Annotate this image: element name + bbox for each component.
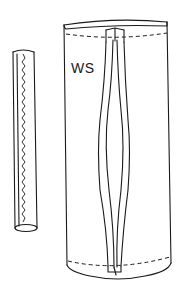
narrow-tube [13, 50, 37, 232]
center-seam [99, 28, 130, 275]
garment-panel [64, 20, 171, 279]
stitch-line-bottom [68, 257, 170, 266]
stitch-line-top [66, 33, 167, 37]
zigzag-seam [22, 54, 25, 222]
wrong-side-label: WS [71, 61, 95, 75]
sewing-diagram [0, 0, 180, 295]
